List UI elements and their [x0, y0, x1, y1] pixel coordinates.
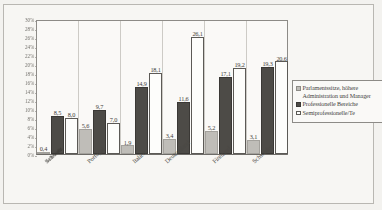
x-axis-label-cell: Finnland — [204, 156, 246, 204]
bar[interactable]: 8,0 — [65, 118, 78, 154]
bar-value-label: 19,2 — [234, 62, 244, 69]
y-axis-tick-label: 14% — [25, 90, 34, 95]
bar[interactable]: 19,3 — [261, 67, 274, 154]
y-axis-tick-label: 30% — [25, 18, 34, 23]
y-axis-tick-label: 24% — [25, 45, 34, 50]
legend-swatch — [296, 102, 301, 107]
bar-groups: 0,48,58,05,69,77,01,914,918,13,411,626,1… — [37, 21, 287, 154]
bar-value-label: 11,6 — [179, 96, 189, 103]
y-axis-tick-label: 10% — [25, 108, 34, 113]
x-axis-label-cell: Deutschland — [162, 156, 204, 204]
bar-group: 3,119,320,6 — [247, 21, 288, 154]
y-axis-tick-label: 0% — [28, 153, 35, 158]
bar-value-label: 14,9 — [136, 81, 146, 88]
bar[interactable]: 5,2 — [205, 131, 218, 154]
bar-value-label: 18,1 — [150, 67, 160, 74]
bar-group: 3,411,626,1 — [163, 21, 205, 154]
bar-value-label: 0,4 — [40, 146, 47, 153]
x-axis-labels: SchweizPortugalItalienDeutschlandFinnlan… — [36, 156, 288, 204]
bar-group: 5,69,77,0 — [79, 21, 121, 154]
y-axis-tick-label: 8% — [28, 117, 35, 122]
bar-value-label: 26,1 — [192, 31, 202, 38]
y-axis-tick-label: 2% — [28, 144, 35, 149]
legend-swatch — [296, 111, 301, 116]
y-axis-tick-label: 22% — [25, 54, 34, 59]
x-axis-label-cell: Italien — [120, 156, 162, 204]
bar[interactable]: 26,1 — [191, 37, 204, 154]
bar-value-label: 8,5 — [54, 110, 61, 117]
bar-value-label: 1,9 — [124, 140, 131, 147]
y-axis-tick-label: 4% — [28, 135, 35, 140]
y-axis-tick-label: 6% — [28, 126, 35, 131]
y-axis-tick-label: 28% — [25, 27, 34, 32]
y-axis-tick-label: 18% — [25, 72, 34, 77]
legend-item[interactable]: Parlamentssitze, höhere Administration u… — [296, 85, 380, 100]
bar[interactable]: 19,2 — [233, 68, 246, 154]
bar-value-label: 3,4 — [166, 133, 173, 140]
bar-value-label: 3,1 — [250, 134, 257, 141]
chart-legend: Parlamentssitze, höhere Administration u… — [292, 80, 382, 123]
bar[interactable]: 1,9 — [121, 145, 134, 154]
legend-swatch — [296, 86, 301, 91]
bar[interactable]: 17,1 — [219, 77, 232, 154]
bar[interactable]: 20,6 — [275, 61, 288, 154]
bar-value-label: 5,2 — [208, 125, 215, 132]
bar[interactable]: 18,1 — [149, 73, 162, 154]
y-axis-tick-label: 16% — [25, 81, 34, 86]
bar[interactable]: 7,0 — [107, 123, 120, 155]
bar-value-label: 20,6 — [276, 56, 286, 63]
bar[interactable]: 14,9 — [135, 87, 148, 154]
bar-value-label: 5,6 — [82, 123, 89, 130]
x-axis-label-cell: Schweiz — [36, 156, 78, 204]
y-axis-tick-label: 20% — [25, 63, 34, 68]
legend-item[interactable]: Semiprofessionelle/Te — [296, 110, 380, 118]
legend-item[interactable]: Professionelle Bereiche — [296, 101, 380, 109]
bar-group: 5,217,119,2 — [205, 21, 247, 154]
bar-value-label: 7,0 — [110, 117, 117, 124]
bar-group: 0,48,58,0 — [37, 21, 79, 154]
plot-area: 30%28%26%24%22%20%18%16%14%12%10%8%6%4%2… — [36, 20, 288, 155]
x-axis-label-cell: Portugal — [78, 156, 120, 204]
bar-value-label: 9,7 — [96, 104, 103, 111]
bar-group: 1,914,918,1 — [121, 21, 163, 154]
legend-label: Parlamentssitze, höhere Administration u… — [303, 85, 381, 100]
bar-value-label: 17,1 — [220, 71, 230, 78]
legend-label: Semiprofessionelle/Te — [303, 110, 355, 118]
y-axis-tick-label: 12% — [25, 99, 34, 104]
x-axis-label-cell: Schweden — [246, 156, 288, 204]
bar-value-label: 8,0 — [68, 112, 75, 119]
bar[interactable]: 5,6 — [79, 129, 92, 154]
legend-label: Professionelle Bereiche — [303, 101, 358, 109]
bar-value-label: 19,3 — [262, 61, 272, 68]
y-axis-tick-label: 26% — [25, 36, 34, 41]
